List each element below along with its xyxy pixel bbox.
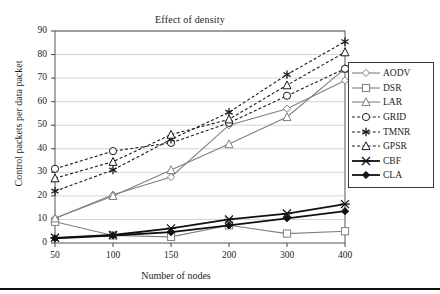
legend-swatch-cla — [351, 168, 381, 182]
y-tick-label: 30 — [21, 167, 47, 177]
legend-item-cbf[interactable]: CBF — [351, 154, 431, 169]
y-tick-label: 90 — [21, 26, 47, 36]
legend-label: CLA — [381, 170, 402, 180]
x-tick-label: 400 — [325, 251, 365, 261]
legend-label: TMNR — [381, 127, 410, 137]
legend-swatch-cbf — [351, 154, 381, 168]
y-tick-label: 40 — [21, 144, 47, 154]
series-grid — [51, 65, 348, 172]
legend-item-tmnr[interactable]: TMNR — [351, 124, 431, 139]
legend-label: LAR — [381, 97, 402, 107]
legend-item-dsr[interactable]: DSR — [351, 81, 431, 96]
legend-swatch-lar — [351, 95, 381, 109]
bottom-rule — [0, 288, 440, 290]
legend-swatch-gpsr — [351, 139, 381, 153]
legend-item-cla[interactable]: CLA — [351, 168, 431, 183]
y-tick-label: 20 — [21, 191, 47, 201]
legend-label: GRID — [381, 112, 406, 122]
y-tick-label: 80 — [21, 50, 47, 60]
series-tmnr — [51, 37, 348, 195]
x-tick-label: 50 — [35, 251, 75, 261]
legend-swatch-grid — [351, 110, 381, 124]
legend-label: DSR — [381, 83, 401, 93]
x-tick-label: 300 — [267, 251, 307, 261]
x-tick-label: 200 — [209, 251, 249, 261]
y-tick-label: 60 — [21, 97, 47, 107]
y-tick-label: 70 — [21, 73, 47, 83]
x-tick-label: 150 — [151, 251, 191, 261]
legend-swatch-aodv — [351, 66, 381, 80]
legend-item-grid[interactable]: GRID — [351, 110, 431, 125]
legend-item-gpsr[interactable]: GPSR — [351, 139, 431, 154]
y-tick-label: 50 — [21, 120, 47, 130]
legend-swatch-tmnr — [351, 125, 381, 139]
chart-legend: AODVDSRLARGRIDTMNRGPSRCBFCLA — [348, 62, 434, 188]
legend-item-aodv[interactable]: AODV — [351, 66, 431, 81]
legend-label: CBF — [381, 156, 401, 166]
x-tick-label: 100 — [93, 251, 133, 261]
series-lar — [51, 64, 349, 221]
legend-label: GPSR — [381, 141, 407, 151]
series-gpsr — [51, 48, 349, 182]
legend-swatch-dsr — [351, 81, 381, 95]
y-tick-label: 0 — [21, 238, 47, 248]
series-aodv — [51, 77, 348, 222]
y-tick-label: 10 — [21, 214, 47, 224]
chart-figure: Effect of density Control packets per da… — [0, 0, 440, 294]
legend-item-lar[interactable]: LAR — [351, 95, 431, 110]
legend-label: AODV — [381, 68, 410, 78]
